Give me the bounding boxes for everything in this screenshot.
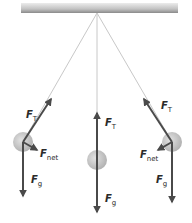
- ceiling-support: [21, 3, 178, 13]
- pendulum-diagram: FT Fnet Fg FT Fg FT Fnet Fg: [0, 0, 192, 223]
- label-gravity-left: Fg: [31, 174, 42, 188]
- label-net-left: Fnet: [40, 148, 59, 162]
- label-tension-right: FT: [161, 100, 173, 114]
- label-net-right: Fnet: [140, 149, 159, 163]
- label-tension-center: FT: [105, 117, 117, 131]
- label-tension-left: FT: [26, 109, 38, 123]
- label-gravity-right: Fg: [156, 174, 167, 188]
- label-gravity-center: Fg: [105, 193, 116, 207]
